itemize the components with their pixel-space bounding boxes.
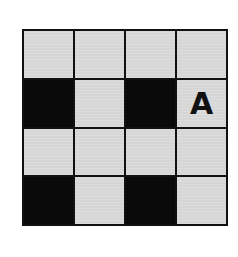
checker-grid: A (22, 29, 228, 226)
cell-r3-c1 (75, 177, 124, 224)
cell-r2-c2 (126, 129, 175, 176)
cell-r0-c0 (24, 31, 73, 78)
cell-r0-c1 (75, 31, 124, 78)
cell-r1-c0 (24, 80, 73, 127)
cell-r1-c2 (126, 80, 175, 127)
cell-r3-c0 (24, 177, 73, 224)
cell-r0-c3 (177, 31, 226, 78)
cell-r2-c0 (24, 129, 73, 176)
cell-r1-c1 (75, 80, 124, 127)
cell-r2-c3 (177, 129, 226, 176)
cell-r3-c2 (126, 177, 175, 224)
cell-r2-c1 (75, 129, 124, 176)
cell-r1-c3-label-a: A (177, 80, 226, 127)
cell-r3-c3 (177, 177, 226, 224)
cell-r0-c2 (126, 31, 175, 78)
